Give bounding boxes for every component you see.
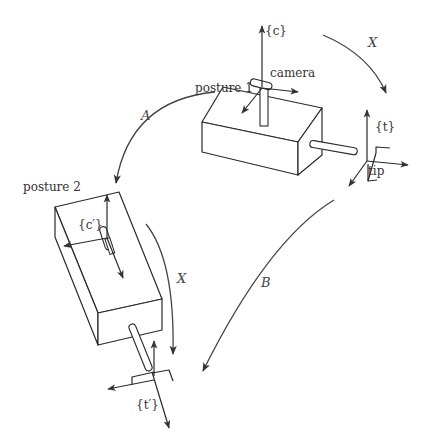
- t-y-axis: [349, 161, 367, 186]
- camera-frame-label: {c}: [265, 24, 287, 38]
- tip2-bracket-right: [152, 370, 173, 381]
- posture1-label: posture 1: [195, 81, 253, 95]
- transform-X-left-label: X: [176, 271, 187, 286]
- transform-A-label: A: [140, 108, 150, 123]
- camera-frame-prime-label: {c′}: [78, 218, 103, 232]
- hand-eye-calibration-diagram: posture 1 camera {c} {t} tip posture 2 {…: [0, 0, 429, 447]
- tip-label: tip: [368, 164, 385, 178]
- posture2-box: [55, 192, 162, 345]
- tip1-bracket-top: [376, 147, 390, 153]
- posture2-label: posture 2: [23, 180, 81, 194]
- camera1-post: [260, 88, 268, 126]
- t-prime-left-axis: [108, 380, 154, 389]
- transform-B-label: B: [260, 275, 271, 290]
- camera-label: camera: [270, 66, 315, 80]
- diagram-svg: posture 1 camera {c} {t} tip posture 2 {…: [0, 0, 429, 447]
- tip-frame-label: {t}: [375, 120, 395, 134]
- tip-frame-prime-label: {t′}: [136, 398, 159, 412]
- transform-A-arrow: [116, 92, 215, 183]
- transform-X-top-label: X: [367, 35, 378, 50]
